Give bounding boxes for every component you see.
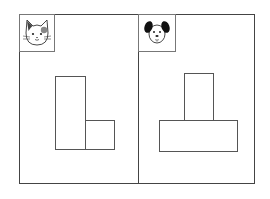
- t-shape-top-rect: [184, 73, 214, 121]
- l-shape-square: [85, 120, 115, 150]
- dog-icon-box: [138, 14, 176, 52]
- cat-face-icon: [20, 15, 54, 51]
- l-shape-tall-rect: [55, 76, 86, 150]
- dog-face-icon: [139, 15, 175, 51]
- t-shape-wide-rect: [159, 120, 238, 152]
- cat-icon-box: [19, 14, 55, 52]
